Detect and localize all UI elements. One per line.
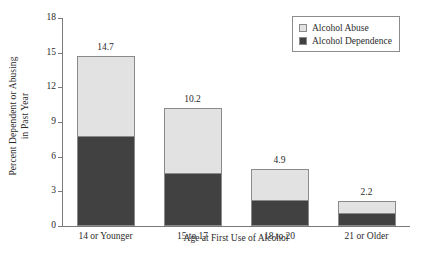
y-axis-title-line-1: Percent Dependent or Abusing [7, 56, 19, 175]
bar-stack[interactable] [77, 56, 135, 226]
bar-group[interactable]: 14.7 [77, 18, 135, 226]
y-axis-tick-mark [58, 18, 62, 19]
x-axis-title: Age at First Use of Alcohol [62, 232, 410, 245]
bar-segment-alcohol-abuse[interactable] [339, 202, 395, 214]
y-axis-title-line-2: in Past Year [19, 56, 31, 175]
legend-swatch-icon-alcohol-abuse [299, 24, 307, 32]
chart-legend: Alcohol Abuse Alcohol Dependence [292, 16, 400, 52]
bar-stack[interactable] [338, 201, 396, 226]
legend-label-alcohol-abuse: Alcohol Abuse [312, 22, 369, 34]
y-axis-tick-mark [58, 122, 62, 123]
y-axis-tick-label: 6 [36, 150, 56, 163]
y-axis-tick-mark [58, 226, 62, 227]
bar-stack[interactable] [164, 108, 222, 226]
bar-segment-alcohol-dependence[interactable] [165, 173, 221, 225]
x-axis-line [58, 226, 410, 227]
bar-total-label: 10.2 [184, 93, 201, 105]
legend-label-alcohol-dependence: Alcohol Dependence [312, 35, 392, 47]
bar-segment-alcohol-dependence[interactable] [252, 200, 308, 225]
bar-segment-alcohol-dependence[interactable] [339, 213, 395, 225]
y-axis-tick-mark [58, 53, 62, 54]
y-axis-tick-label: 12 [36, 80, 56, 93]
y-axis-tick-label: 18 [36, 11, 56, 24]
bar-stack[interactable] [251, 169, 309, 226]
bar-total-label: 2.2 [361, 186, 373, 198]
legend-swatch-icon-alcohol-dependence [299, 37, 307, 45]
legend-item-alcohol-abuse: Alcohol Abuse [299, 21, 392, 34]
y-axis-tick-mark [58, 87, 62, 88]
bar-segment-alcohol-abuse[interactable] [165, 109, 221, 173]
y-axis-line [62, 18, 63, 226]
y-axis-tick-label: 3 [36, 184, 56, 197]
y-axis-tick-label: 0 [36, 219, 56, 232]
bar-segment-alcohol-abuse[interactable] [252, 170, 308, 200]
stacked-bar-chart: Percent Dependent or Abusing in Past Yea… [0, 0, 422, 270]
bar-total-label: 14.7 [97, 41, 114, 53]
bar-total-label: 4.9 [274, 154, 286, 166]
y-axis-tick-mark [58, 157, 62, 158]
bar-segment-alcohol-abuse[interactable] [78, 57, 134, 136]
y-axis-title: Percent Dependent or Abusing in Past Yea… [2, 0, 36, 232]
bar-segment-alcohol-dependence[interactable] [78, 136, 134, 225]
bar-group[interactable]: 10.2 [164, 18, 222, 226]
y-axis-tick-label: 15 [36, 46, 56, 59]
y-axis-tick-label: 9 [36, 115, 56, 128]
y-axis-tick-mark [58, 191, 62, 192]
legend-item-alcohol-dependence: Alcohol Dependence [299, 34, 392, 47]
